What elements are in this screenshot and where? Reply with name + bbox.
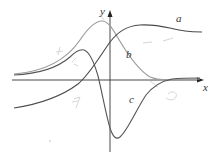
function-graph-figure: x y a b c <box>0 0 219 154</box>
curve-a-label: a <box>176 12 182 24</box>
y-axis-label: y <box>99 5 105 17</box>
y-axis-arrow-icon <box>108 10 113 17</box>
curve-b-label: b <box>126 48 132 60</box>
handwritten-marks <box>49 14 176 142</box>
curve-c-label: c <box>129 93 134 105</box>
curve-a <box>14 25 202 108</box>
x-axis-label: x <box>202 81 208 93</box>
curve-c <box>14 50 200 138</box>
